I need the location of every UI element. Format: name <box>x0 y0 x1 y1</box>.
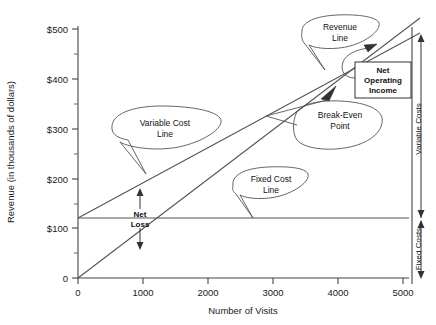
net-loss-text-1: Net <box>134 210 147 219</box>
y-tick-label-0: 0 <box>63 273 68 284</box>
variable-cost-callout-text-1: Variable Cost <box>140 118 191 128</box>
x-tick-label-5000: 5000 <box>392 287 413 298</box>
variable-costs-arrowhead-top <box>418 34 425 42</box>
x-tick-label-4000: 4000 <box>327 287 348 298</box>
right-bracket-group: Variable Costs Fixed Costs <box>412 27 425 284</box>
net-operating-income-text-2: Operating <box>364 76 402 85</box>
x-tick-labels: 0 1000 2000 3000 4000 5000 <box>75 287 413 298</box>
callout-variable-cost-line: Variable Cost Line <box>112 106 221 174</box>
net-loss-upper-arrowhead <box>137 188 144 196</box>
net-loss-lower-arrowhead <box>137 242 144 250</box>
x-tick-label-0: 0 <box>75 287 80 298</box>
variable-cost-callout-text-2: Line <box>157 129 173 139</box>
net-operating-income-arrow <box>364 44 377 52</box>
fixed-cost-callout-text-1: Fixed Cost <box>251 174 292 184</box>
x-axis-title: Number of Visits <box>208 305 278 316</box>
y-axis-title: Revenue (in thousands of dollars) <box>5 81 16 223</box>
variable-cost-callout-oval <box>112 106 221 174</box>
y-tick-label-500: $500 <box>47 24 68 35</box>
fixed-costs-bracket-label: Fixed Costs <box>414 228 423 270</box>
callout-fixed-cost-line: Fixed Cost Line <box>233 167 309 218</box>
callout-net-operating-income: Net Operating Income <box>342 44 411 98</box>
data-lines-group <box>78 18 420 278</box>
y-tick-label-300: $300 <box>47 124 68 135</box>
y-tick-label-200: $200 <box>47 174 68 185</box>
y-tick-label-100: $100 <box>47 223 68 234</box>
break-even-callout-text-1: Break-Even <box>318 110 363 120</box>
y-ticks-minor <box>74 54 78 253</box>
chart-canvas: $500 $400 $300 $200 $100 0 0 1000 2000 3… <box>0 0 436 325</box>
annotation-net-loss: Net Loss <box>131 188 150 250</box>
y-tick-label-400: $400 <box>47 74 68 85</box>
fixed-cost-callout-text-2: Line <box>263 185 279 195</box>
x-tick-label-2000: 2000 <box>197 287 218 298</box>
variable-costs-arrowhead-bottom <box>418 210 425 218</box>
variable-cost-line <box>78 33 420 218</box>
fixed-costs-arrowhead-bottom <box>418 271 425 279</box>
x-tick-label-3000: 3000 <box>262 287 283 298</box>
breakeven-chart-svg: $500 $400 $300 $200 $100 0 0 1000 2000 3… <box>0 0 436 325</box>
revenue-callout-text-2: Line <box>332 33 348 43</box>
revenue-callout-text-1: Revenue <box>323 22 357 32</box>
net-operating-income-text-1: Net <box>377 66 390 75</box>
x-tick-label-1000: 1000 <box>132 287 153 298</box>
net-operating-income-text-3: Income <box>369 86 398 95</box>
y-tick-labels: $500 $400 $300 $200 $100 0 <box>47 24 68 284</box>
net-loss-text-2: Loss <box>131 220 150 229</box>
break-even-callout-text-2: Point <box>330 121 350 131</box>
x-ticks <box>78 278 403 284</box>
variable-costs-bracket-label: Variable Costs <box>414 103 423 154</box>
revenue-line <box>78 18 420 278</box>
fixed-costs-arrowhead-top <box>418 220 425 228</box>
